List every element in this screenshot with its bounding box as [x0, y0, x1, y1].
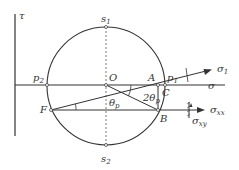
s2-label: s2	[101, 153, 111, 166]
F-label: F	[39, 104, 48, 115]
sigma-xx-label: σxx	[210, 104, 225, 117]
B-label: B	[159, 113, 167, 124]
tau-label: τ	[19, 10, 25, 21]
sigma-xx-arrowhead	[197, 107, 205, 113]
p2-label: p2	[33, 72, 44, 85]
sigma-label: σ	[208, 80, 216, 91]
sigma-xy-label: σxy	[192, 115, 208, 128]
mohr-circle-diagram: τ σ s1 s2 p2 p1 O A C B F θp 2θp σ1 σxx …	[0, 0, 239, 170]
p1-label: p1	[167, 72, 178, 85]
theta-p-label: θp	[109, 97, 120, 110]
O-label: O	[109, 72, 117, 83]
s1-label: s1	[101, 13, 111, 26]
C-label: C	[162, 87, 170, 98]
theta-p-arc	[76, 104, 77, 110]
sigma1-label: σ1	[217, 63, 228, 76]
sigma1-arrowhead	[204, 69, 213, 75]
sigma1-plane-mark	[186, 68, 188, 82]
A-label: A	[147, 72, 155, 83]
